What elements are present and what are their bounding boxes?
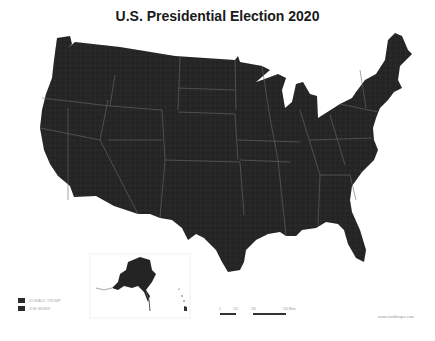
legend-item-trump: DONALD TRUMP [18,296,61,304]
credit-text: www.vividmaps.com [378,314,414,319]
contiguous-us [40,33,412,272]
legend-swatch [18,298,25,303]
scale-segment [220,313,236,315]
scale-tick: 125 [233,307,238,311]
alaska [96,257,156,311]
legend-label: DONALD TRUMP [29,298,61,303]
hawaii [178,288,187,311]
scale-tick: 0 [219,307,221,311]
scale-segment [253,313,286,315]
legend-label: JOE BIDEN [29,306,50,311]
legend-item-biden: JOE BIDEN [18,304,61,312]
legend: DONALD TRUMP JOE BIDEN [18,296,61,312]
scale-tick: 250 [251,307,256,311]
scale-tick: 500 Miles [283,307,296,311]
us-county-map [0,0,435,341]
legend-swatch [18,306,25,311]
scale-bar: 0 125 250 500 Miles [219,307,309,319]
